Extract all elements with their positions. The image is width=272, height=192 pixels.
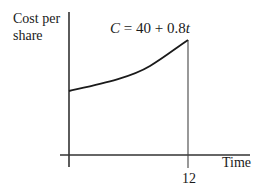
y-axis-label: Cost per share xyxy=(13,10,60,44)
cost-curve xyxy=(69,40,188,91)
y-axis-label-line1: Cost per xyxy=(13,10,60,27)
y-axis-label-line2: share xyxy=(13,27,60,44)
chart: Cost per share C = 40 + 0.8t Time 12 xyxy=(0,0,272,192)
equation-rhs: = 40 + 0.8 xyxy=(120,20,186,36)
equation-lhs: C xyxy=(110,20,120,36)
equation-var: t xyxy=(186,20,190,36)
x-axis-label: Time xyxy=(222,155,251,171)
x-tick-12: 12 xyxy=(182,171,196,187)
equation-annotation: C = 40 + 0.8t xyxy=(110,20,190,37)
